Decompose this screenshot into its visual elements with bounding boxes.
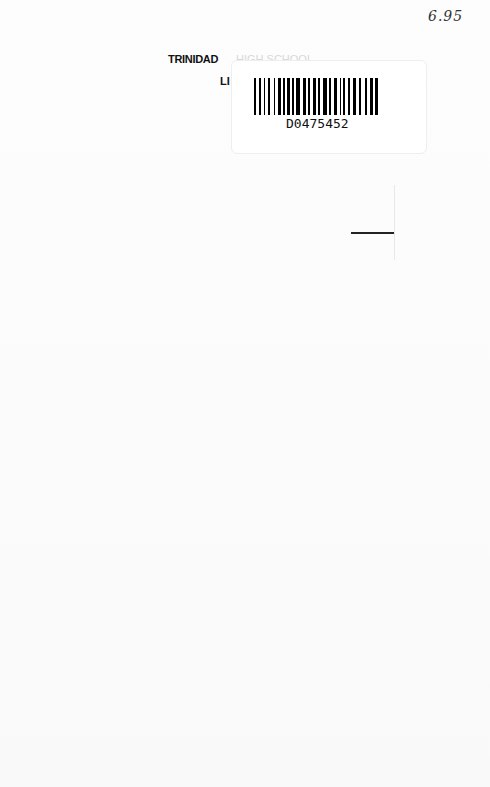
book-page: 6.95 TRINIDAD HIGH SCHOOL LI D0475452 xyxy=(0,0,490,787)
faint-mark xyxy=(394,185,395,260)
barcode-icon xyxy=(254,78,400,115)
library-stamp-line1: TRINIDAD xyxy=(168,53,218,65)
library-stamp-line2: LI xyxy=(220,75,230,87)
ink-dash xyxy=(351,232,394,234)
barcode-number: D0475452 xyxy=(286,116,349,131)
handwritten-price: 6.95 xyxy=(428,8,463,24)
